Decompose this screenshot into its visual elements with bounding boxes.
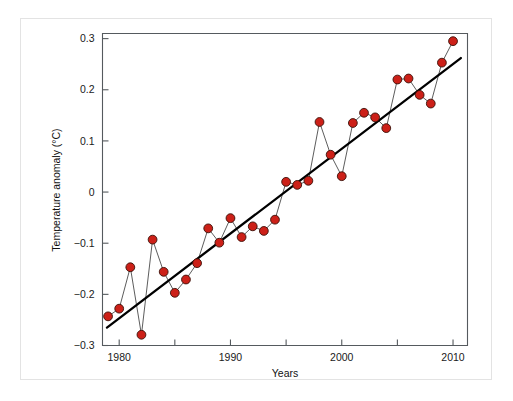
- data-point-marker: [393, 75, 402, 84]
- data-point-marker: [137, 330, 146, 339]
- data-point-marker: [182, 275, 191, 284]
- data-point-marker: [226, 214, 235, 223]
- data-point-marker: [170, 288, 179, 297]
- data-point-marker: [426, 99, 435, 108]
- data-point-marker: [159, 267, 168, 276]
- data-point-marker: [293, 181, 302, 190]
- data-point-marker: [237, 233, 246, 242]
- series-polyline: [108, 41, 453, 335]
- y-tick-labels: −0.3−0.2−0.100.10.20.3: [74, 32, 95, 351]
- y-tick-label: −0.3: [74, 339, 95, 351]
- data-point-marker: [259, 227, 268, 236]
- data-point-marker: [360, 108, 369, 117]
- data-point-marker: [449, 37, 458, 46]
- data-point-marker: [115, 304, 124, 313]
- chart-screenshot: −0.3−0.2−0.100.10.20.3 1980199020002010 …: [0, 0, 513, 401]
- data-point-marker: [438, 58, 447, 67]
- data-point-marker: [271, 215, 280, 224]
- x-tick-label: 1990: [219, 351, 243, 363]
- y-tick-group: [103, 39, 109, 346]
- data-point-marker: [282, 177, 291, 186]
- x-tick-label: 2010: [441, 351, 465, 363]
- y-axis-title: Temperature anomaly (°C): [50, 128, 62, 251]
- data-point-marker: [371, 113, 380, 122]
- trend-line: [107, 58, 461, 328]
- data-point-marker: [326, 150, 335, 159]
- y-tick-label: 0.3: [80, 32, 95, 44]
- y-tick-label: 0.1: [80, 135, 95, 147]
- data-markers: [104, 37, 458, 339]
- y-tick-label: 0.2: [80, 83, 95, 95]
- x-tick-label: 1980: [108, 351, 132, 363]
- x-tick-label: 2000: [330, 351, 354, 363]
- data-point-marker: [148, 235, 157, 244]
- y-tick-label: −0.2: [74, 288, 95, 300]
- data-point-marker: [415, 90, 424, 99]
- data-point-marker: [337, 172, 346, 181]
- data-point-marker: [315, 118, 324, 127]
- data-point-marker: [304, 176, 313, 185]
- data-point-marker: [348, 119, 357, 128]
- data-point-marker: [248, 222, 257, 231]
- data-point-marker: [193, 259, 202, 268]
- x-axis-title: Years: [272, 367, 298, 379]
- data-point-marker: [215, 238, 224, 247]
- y-tick-label: −0.1: [74, 237, 95, 249]
- data-point-marker: [404, 74, 413, 83]
- data-point-marker: [104, 312, 113, 321]
- y-tick-label: 0: [89, 186, 95, 198]
- data-point-marker: [382, 124, 391, 133]
- x-tick-labels: 1980199020002010: [108, 351, 465, 363]
- data-point-marker: [126, 263, 135, 272]
- temperature-anomaly-chart: −0.3−0.2−0.100.10.20.3 1980199020002010 …: [0, 0, 513, 401]
- y-axis: −0.3−0.2−0.100.10.20.3: [74, 32, 109, 351]
- data-point-marker: [204, 224, 213, 233]
- x-tick-group: [119, 340, 453, 346]
- x-axis: 1980199020002010: [108, 340, 465, 363]
